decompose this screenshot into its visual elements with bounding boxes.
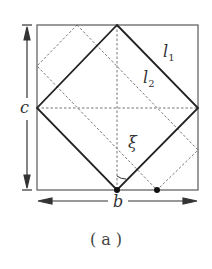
- angle-arc: [117, 176, 126, 179]
- point-2: [154, 187, 160, 193]
- label-xi: ξ: [128, 135, 137, 151]
- label-b: b: [113, 194, 123, 210]
- caption: ( a ): [0, 230, 212, 249]
- label-c: c: [20, 100, 29, 116]
- diagram: [0, 0, 212, 269]
- label-l2: l2: [143, 70, 155, 89]
- label-l1: l1: [163, 44, 175, 63]
